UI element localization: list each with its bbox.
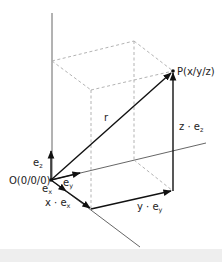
r-label: r — [104, 112, 109, 123]
point-p-label: P(x/y/z) — [177, 66, 215, 77]
ey-label: ey — [63, 177, 73, 190]
z-component-label: z · ez — [179, 121, 204, 134]
coordinate-diagram: P(x/y/z) O(0/0/0) r ez ey ex x · ex y · … — [0, 0, 222, 248]
point-p — [171, 69, 175, 73]
ez-label: ez — [33, 157, 43, 170]
vector-r — [51, 73, 171, 180]
ex-label: ex — [42, 183, 52, 196]
y-component-label: y · ey — [137, 201, 163, 214]
bottom-bar — [0, 249, 222, 262]
x-component-label: x · ex — [45, 197, 71, 210]
